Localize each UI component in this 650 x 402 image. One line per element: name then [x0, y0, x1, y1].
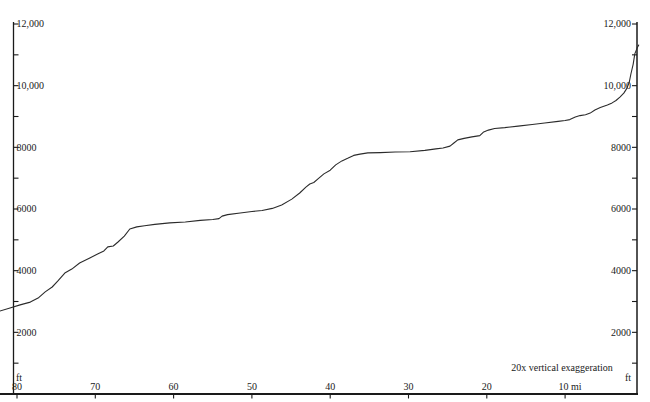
x-axis-tick-label: 10 mi — [559, 381, 582, 392]
elevation-profile-page: 2000200040004000600060008000800010,00010… — [0, 0, 650, 402]
right-y-axis-tick-label: 12,000 — [604, 18, 632, 29]
x-axis-tick-label: 20 — [482, 381, 492, 392]
right-y-axis-tick-label: 8000 — [611, 142, 631, 153]
left-y-axis-tick-label: 12,000 — [17, 18, 45, 29]
right-y-axis-tick-label: 4000 — [611, 265, 631, 276]
ticks-layer: 2000200040004000600060008000800010,00010… — [12, 18, 637, 398]
vertical-exaggeration-note: 20x vertical exaggeration — [511, 362, 613, 373]
elevation-profile-chart: 2000200040004000600060008000800010,00010… — [0, 0, 650, 402]
right-y-axis-tick-label: 10,000 — [604, 80, 632, 91]
left-y-axis-tick-label: 6000 — [17, 203, 37, 214]
left-axis-unit-label: ft — [16, 372, 22, 383]
left-y-axis-tick-label: 4000 — [17, 265, 37, 276]
x-axis-tick-label: 70 — [90, 381, 100, 392]
curve-layer — [0, 45, 639, 311]
right-y-axis-tick-label: 6000 — [611, 203, 631, 214]
right-axis-unit-label: ft — [625, 372, 631, 383]
x-axis-tick-label: 50 — [247, 381, 257, 392]
left-y-axis-tick-label: 10,000 — [17, 80, 45, 91]
left-y-axis-tick-label: 2000 — [17, 327, 37, 338]
left-y-axis-tick-label: 8000 — [17, 142, 37, 153]
x-axis-tick-label: 30 — [404, 381, 414, 392]
x-axis-tick-label: 60 — [169, 381, 179, 392]
right-y-axis-tick-label: 2000 — [611, 327, 631, 338]
x-axis-tick-label: 40 — [325, 381, 335, 392]
axes-layer — [0, 22, 638, 395]
elevation-profile-curve — [0, 45, 639, 311]
